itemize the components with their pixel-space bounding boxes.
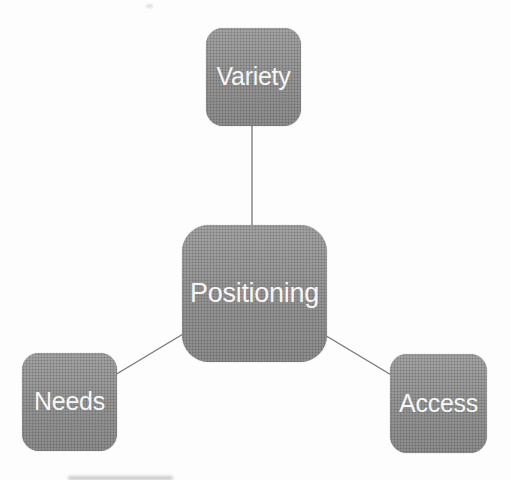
diagram-node-needs: Needs <box>22 353 117 451</box>
node-needs-label: Needs <box>34 388 105 416</box>
node-access-label: Access <box>399 390 478 418</box>
scan-smudge-artifact <box>68 476 173 480</box>
node-positioning-label: Positioning <box>190 279 319 309</box>
scan-speck-artifact <box>146 4 153 8</box>
diagram-node-variety: Variety <box>206 28 301 126</box>
diagram-canvas: Variety Positioning Needs Access <box>0 0 510 480</box>
diagram-node-access: Access <box>390 354 487 453</box>
node-variety-label: Variety <box>217 63 291 91</box>
diagram-node-positioning: Positioning <box>182 225 327 362</box>
